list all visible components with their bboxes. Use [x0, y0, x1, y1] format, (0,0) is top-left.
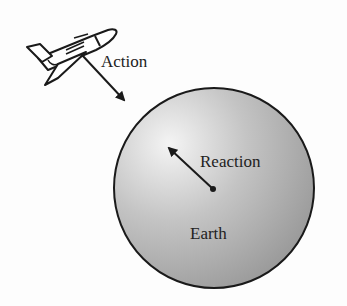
earth-center-dot [210, 186, 216, 192]
diagram-canvas [0, 0, 347, 306]
reaction-label: Reaction [200, 153, 260, 170]
earth-label: Earth [190, 225, 227, 242]
action-reaction-diagram: Action Reaction Earth [0, 0, 347, 306]
action-label: Action [101, 53, 147, 70]
